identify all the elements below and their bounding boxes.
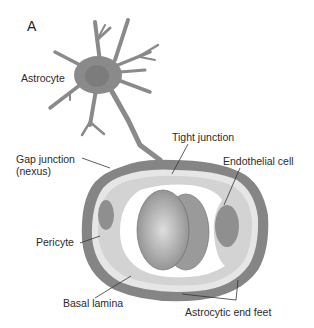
label-nexus: (nexus) — [16, 165, 51, 177]
label-basal-lamina: Basal lamina — [63, 297, 123, 309]
label-tight-junction: Tight junction — [172, 131, 234, 143]
pericyte — [98, 200, 114, 230]
label-astrocyte: Astrocyte — [21, 72, 65, 84]
panel-letter: A — [27, 18, 36, 34]
blood-brain-barrier-diagram: A Astrocyte Tight junction Gap junction … — [0, 0, 314, 328]
endothelial-nucleus — [215, 205, 239, 247]
label-gap-junction: Gap junction — [16, 153, 75, 165]
label-endothelial-cell: Endothelial cell — [223, 155, 294, 167]
erythrocyte-front — [137, 190, 189, 270]
astrocyte-nucleus — [85, 65, 109, 87]
label-pericyte: Pericyte — [36, 236, 74, 248]
label-astrocytic-end-feet: Astrocytic end feet — [185, 306, 271, 318]
